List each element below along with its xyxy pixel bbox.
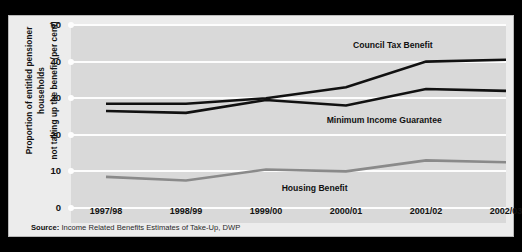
source-label: Source:	[31, 223, 59, 232]
series-label-minimum-income-guarantee: Minimum Income Guarantee	[327, 115, 442, 125]
top-border-band	[0, 0, 522, 15]
series-label-housing-benefit: Housing Benefit	[282, 183, 348, 193]
series-label-council-tax-benefit: Council Tax Benefit	[353, 40, 433, 50]
x-tick-label-1999-00: 1999/00	[250, 206, 283, 216]
x-tick-label-1997-98: 1997/98	[90, 206, 123, 216]
right-border-band	[514, 15, 522, 237]
x-tick-label-2000-01: 2000/01	[330, 206, 363, 216]
source-note: Source: Income Related Benefits Estimate…	[31, 223, 240, 232]
series-lines-svg	[9, 16, 515, 238]
bottom-border-band	[0, 237, 522, 252]
x-tick-label-2002-03: 2002/03	[490, 206, 522, 216]
left-border-band	[0, 15, 8, 237]
series-line-housing-benefit	[106, 160, 506, 180]
chart-panel: Proportion of entitled pensioner househo…	[8, 15, 514, 237]
series-line-council-tax-benefit	[106, 60, 506, 104]
figure-container: Proportion of entitled pensioner househo…	[0, 0, 522, 252]
x-axis-tick-labels: 1997/981998/991999/002000/012001/022002/…	[71, 206, 506, 222]
source-text: Income Related Benefits Estimates of Tak…	[61, 223, 240, 232]
x-tick-label-2001-02: 2001/02	[410, 206, 443, 216]
x-tick-label-1998-99: 1998/99	[170, 206, 203, 216]
